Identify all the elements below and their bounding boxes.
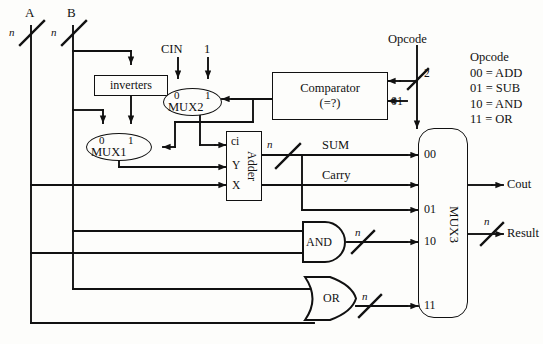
sum-label: SUM xyxy=(322,139,349,152)
comparator-block[interactable]: Comparator (=?) xyxy=(272,72,388,120)
input-label-one: 1 xyxy=(204,43,210,56)
mux2-sel1-label: 1 xyxy=(205,89,211,101)
input-label-cin: CIN xyxy=(161,43,183,56)
mux3-input-10-label: 10 xyxy=(424,235,436,247)
or-bus-width: n xyxy=(362,291,368,302)
carry-label: Carry xyxy=(322,169,350,182)
comparator-expr: (=?) xyxy=(320,96,341,111)
inverters-block[interactable]: inverters xyxy=(94,75,168,96)
mux3-input-01-label: 01 xyxy=(424,203,436,215)
bus-slash-sum xyxy=(276,144,300,168)
sum-bus-width: n xyxy=(267,139,273,150)
opcode-bus-width: 2 xyxy=(424,68,430,80)
bus-width-b: n xyxy=(51,27,57,38)
input-label-a: A xyxy=(25,6,34,19)
adder-port-x: X xyxy=(232,180,240,192)
alu-block-diagram: A n B n CIN 1 Opcode 2 inverters 0 1 MUX… xyxy=(0,0,543,344)
mux2-label: MUX2 xyxy=(168,101,203,114)
mux3-label: MUX3 xyxy=(448,202,461,248)
mux3-input-11-label: 11 xyxy=(424,299,436,311)
output-label-result: Result xyxy=(507,227,539,240)
input-label-b: B xyxy=(67,6,76,19)
adder-label: Adder xyxy=(246,146,258,186)
bus-width-a: n xyxy=(9,27,15,38)
bus-slash-a xyxy=(20,21,44,45)
opcode-legend-row: 11 = OR xyxy=(470,112,522,128)
and-gate-label[interactable]: AND xyxy=(306,236,332,248)
opcode-legend: Opcode 00 = ADD 01 = SUB 10 = AND 11 = O… xyxy=(470,50,522,128)
opcode-legend-title: Opcode xyxy=(470,50,522,66)
result-bus-width: n xyxy=(484,216,490,227)
and-bus-width: n xyxy=(355,227,361,238)
mux3-input-00-label: 00 xyxy=(424,148,436,160)
opcode-legend-row: 00 = ADD xyxy=(470,66,522,82)
adder-port-ci: ci xyxy=(231,136,239,148)
opcode-legend-row: 01 = SUB xyxy=(470,81,522,97)
bus-slash-b xyxy=(62,21,86,45)
mux1-sel1-label: 1 xyxy=(128,134,134,146)
comparator-compare-value: 01 xyxy=(391,95,403,107)
adder-port-y: Y xyxy=(232,160,240,172)
opcode-legend-row: 10 = AND xyxy=(470,97,522,113)
mux1-label: MUX1 xyxy=(91,146,126,159)
output-label-cout: Cout xyxy=(507,178,531,191)
or-gate-label[interactable]: OR xyxy=(323,292,340,304)
comparator-title: Comparator xyxy=(300,81,360,96)
input-label-opcode: Opcode xyxy=(388,33,427,46)
